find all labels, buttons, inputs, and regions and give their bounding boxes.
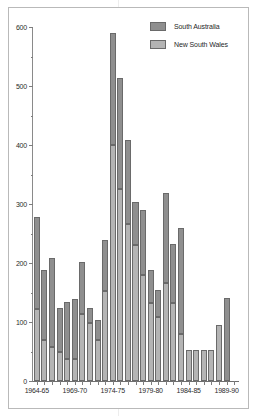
bar-segment-new-south-wales [49,347,55,381]
bar-segment-south-australia [64,302,70,359]
bar-1975-76 [117,78,123,381]
bar-segment-south-australia [148,270,154,304]
bar-segment-new-south-wales [186,350,192,381]
bar-segment-new-south-wales [110,145,116,381]
x-tick [211,381,212,385]
bar-segment-south-australia [34,217,40,309]
x-tick [196,381,197,385]
bar-segment-new-south-wales [193,350,199,381]
y-tick-label: 400 [16,142,27,149]
bar-segment-new-south-wales [148,303,154,381]
bar-segment-south-australia [132,202,138,246]
y-tick-minor [31,175,33,176]
bar-segment-new-south-wales [125,224,131,381]
x-tick [166,381,167,385]
x-tick [136,381,137,385]
y-tick-minor [31,293,33,294]
y-tick-minor [31,234,33,235]
x-tick [151,381,152,385]
x-tick [234,381,235,385]
x-tick [173,381,174,385]
bar-segment-south-australia [79,262,85,315]
bar-segment-new-south-wales [102,291,108,381]
x-tick [67,381,68,385]
y-tick-label: 600 [16,24,27,31]
legend-label-new-south-wales: New South Wales [174,41,228,48]
bar-1985-86 [193,350,199,381]
bar-1988-89 [216,325,222,381]
y-tick [29,381,33,382]
bar-segment-south-australia [110,33,116,145]
x-tick [105,381,106,385]
x-tick [37,381,38,385]
bar-1979-80 [148,270,154,382]
bar-segment-new-south-wales [201,350,207,381]
bar-segment-south-australia [87,308,93,323]
x-tick [52,381,53,385]
x-tick [181,381,182,385]
x-tick [90,381,91,385]
bar-segment-new-south-wales [79,314,85,381]
legend-swatch-new-south-wales [150,40,166,49]
y-tick [29,145,33,146]
x-tick [120,381,121,385]
bar-segment-new-south-wales [64,359,70,381]
bar-segment-new-south-wales [117,189,123,381]
bar-segment-new-south-wales [155,317,161,381]
bar-1984-85 [186,350,192,381]
bar-1965-66 [41,270,47,382]
bar-segment-new-south-wales [132,245,138,381]
x-tick-label: 1979-80 [139,387,163,394]
x-tick-label: 1974-75 [101,387,125,394]
bar-1987-88 [208,350,214,381]
x-tick-label: 1964-65 [25,387,49,394]
bar-segment-south-australia [95,320,101,339]
bar-1982-83 [170,244,176,381]
bar-1981-82 [163,193,169,381]
bar-1973-74 [102,240,108,381]
y-tick-label: 500 [16,83,27,90]
x-tick [113,381,114,385]
x-tick [98,381,99,385]
bar-segment-new-south-wales [178,334,184,381]
bar-segment-new-south-wales [208,350,214,381]
y-tick-minor [31,57,33,58]
bar-segment-south-australia [49,258,55,348]
x-tick-label: 1984-85 [176,387,200,394]
plot-area: 0100200300400500600 [33,27,238,381]
y-tick [29,86,33,87]
bar-segment-south-australia [178,228,184,334]
bar-segment-south-australia [163,193,169,283]
x-tick [204,381,205,385]
y-tick [29,27,33,28]
y-tick [29,204,33,205]
x-tick-label: 1989-90 [214,387,238,394]
bar-segment-south-australia [41,270,47,340]
bar-segment-south-australia [125,140,131,224]
bar-segment-south-australia [170,244,176,303]
bar-1964-65 [34,217,40,381]
bar-1970-71 [79,262,85,381]
bar-segment-new-south-wales [72,359,78,381]
bar-segment-south-australia [117,78,123,190]
x-tick [75,381,76,385]
chart-legend: South Australia New South Wales [150,19,242,55]
bar-1966-67 [49,258,55,381]
bar-1972-73 [95,320,101,381]
x-tick [60,381,61,385]
y-tick-label: 200 [16,260,27,267]
bar-1986-87 [201,350,207,381]
bar-segment-new-south-wales [216,325,222,381]
x-tick [128,381,129,385]
bar-segment-south-australia [102,240,108,291]
bar-segment-new-south-wales [170,303,176,381]
y-tick-label: 300 [16,201,27,208]
legend-item-new-south-wales: New South Wales [150,37,242,51]
bar-segment-new-south-wales [163,283,169,381]
x-tick-label: 1969-70 [63,387,87,394]
y-tick-minor [31,116,33,117]
x-tick [158,381,159,385]
bar-1969-70 [72,299,78,381]
chart-figure: 0100200300400500600 1964-651969-701974-7… [0,0,257,416]
bar-segment-south-australia [155,290,161,318]
